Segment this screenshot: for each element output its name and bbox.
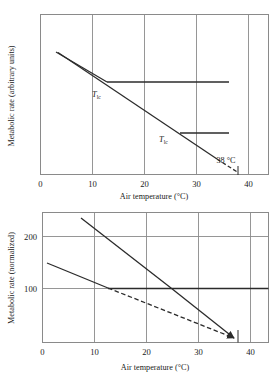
conductance-line-lower	[58, 53, 217, 160]
plot-frame-bottom	[43, 213, 269, 343]
ytick-label-100: 100	[24, 284, 37, 294]
gridlines-horizontal-bottom	[43, 237, 269, 289]
shallow-conductance-line	[47, 263, 108, 288]
xtick-label-20: 20	[142, 347, 151, 357]
xtick-label-10: 10	[88, 179, 97, 189]
xtick-label-40: 40	[244, 179, 253, 189]
y-axis-title-bottom: Metabolic rate (normalized)	[7, 232, 16, 324]
tlc-subscript-upper: lc	[97, 94, 102, 100]
xtick-label-20: 20	[140, 179, 149, 189]
gridlines-vertical-bottom	[95, 213, 251, 343]
tlc-label-upper: Tlc	[92, 90, 101, 100]
tlc-subscript-lower: lc	[164, 139, 169, 145]
gridlines-top	[93, 15, 249, 175]
steep-conductance-arrow	[171, 288, 234, 338]
xtick-label-30: 30	[194, 347, 203, 357]
plot-frame-top	[41, 15, 269, 175]
chart-panel-bottom: 200 100 0 10 20 30 40 Air temperature (°…	[0, 200, 280, 378]
plateau-lines-top	[107, 82, 229, 133]
body-temp-label: 38 °C	[217, 156, 237, 165]
xtick-label-0: 0	[40, 347, 44, 357]
tlc-label-lower: Tlc	[159, 135, 168, 145]
x-axis-title-bottom: Air temperature (°C)	[121, 363, 190, 372]
chart-panel-top: Tlc Tlc 38 °C 0 10 20 30 40 Air temperat…	[0, 0, 280, 200]
top-chart-svg: Tlc Tlc 38 °C 0 10 20 30 40 Air temperat…	[0, 0, 280, 200]
bottom-chart-svg: 200 100 0 10 20 30 40 Air temperature (°…	[0, 200, 280, 378]
shallow-conductance-arrow	[108, 288, 234, 338]
y-axis-title-top: Metabolic rate (arbitrary units)	[7, 45, 16, 146]
xtick-label-0: 0	[38, 179, 42, 189]
xtick-label-30: 30	[192, 179, 201, 189]
xtick-label-40: 40	[246, 347, 255, 357]
xtick-label-10: 10	[90, 347, 99, 357]
data-lines-top	[56, 52, 238, 173]
figure-page: Tlc Tlc 38 °C 0 10 20 30 40 Air temperat…	[0, 0, 280, 378]
ytick-label-200: 200	[24, 232, 37, 242]
